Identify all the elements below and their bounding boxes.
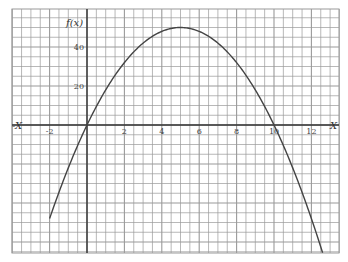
function-curve — [50, 28, 323, 253]
y-tick-label: 20 — [74, 82, 84, 91]
x-tick-label: 12 — [306, 127, 316, 136]
x-axis-negative-label: -X — [12, 120, 23, 131]
x-tick-label: -2 — [46, 127, 54, 136]
x-tick-label: 4 — [159, 127, 164, 136]
grid-paper — [12, 9, 339, 253]
x-tick-label: 2 — [122, 127, 127, 136]
axes — [12, 9, 339, 253]
y-axis-label: f(x) — [65, 17, 83, 28]
x-tick-label: 6 — [197, 127, 202, 136]
function-plot: -2246810122040 f(x) X -X — [0, 0, 348, 262]
x-axis-label: X — [329, 120, 338, 131]
x-tick-label: 8 — [234, 127, 239, 136]
y-tick-label: 40 — [74, 43, 84, 52]
